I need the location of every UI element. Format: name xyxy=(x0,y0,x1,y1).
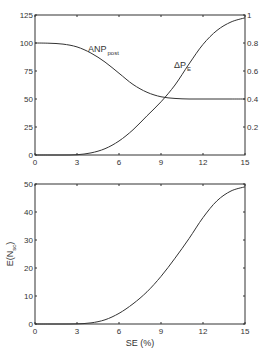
top-y-ticks-left: 0255075100125 xyxy=(20,11,37,160)
bottom-x-ticks: 03691215 xyxy=(33,184,250,336)
top-plot: 03691215 0255075100125 0.20.40.60.81 ANP… xyxy=(20,11,259,167)
x-tick-label: 9 xyxy=(159,327,164,336)
bottom-y-ticks: 01020304050 xyxy=(24,180,245,329)
y-tick-label-right: 0.2 xyxy=(247,123,259,132)
y-tick-label: 20 xyxy=(24,264,33,273)
y-tick-label: 0 xyxy=(29,320,34,329)
x-tick-label: 12 xyxy=(199,327,208,336)
x-tick-label: 0 xyxy=(33,158,38,167)
x-tick-label: 9 xyxy=(159,158,164,167)
bottom-plot: 03691215 01020304050 E(Nsc) SE (%) xyxy=(5,180,250,348)
anp-post-line xyxy=(35,43,245,99)
y-tick-label-right: 0.8 xyxy=(247,39,259,48)
figure: 03691215 0255075100125 0.20.40.60.81 ANP… xyxy=(0,0,264,351)
x-tick-label: 6 xyxy=(117,327,122,336)
x-tick-label: 6 xyxy=(117,158,122,167)
y-tick-label: 50 xyxy=(24,95,33,104)
y-tick-label-right: 0.4 xyxy=(247,95,259,104)
delta-pe-line xyxy=(35,18,245,155)
e-nsc-line xyxy=(35,187,245,324)
x-tick-label: 15 xyxy=(241,327,250,336)
y-tick-label: 40 xyxy=(24,208,33,217)
x-tick-label: 12 xyxy=(199,158,208,167)
top-x-ticks: 03691215 xyxy=(33,15,250,167)
y-tick-label: 75 xyxy=(24,67,33,76)
y-tick-label: 0 xyxy=(29,151,34,160)
x-tick-label: 3 xyxy=(75,327,80,336)
delta-pe-label: ΔPE xyxy=(174,60,191,72)
bottom-y-axis-label: E(Nsc) xyxy=(5,242,17,267)
x-tick-label: 0 xyxy=(33,327,38,336)
top-plot-frame xyxy=(35,15,245,155)
x-tick-label: 3 xyxy=(75,158,80,167)
y-tick-label: 100 xyxy=(20,39,34,48)
y-tick-label-right: 0.6 xyxy=(247,67,259,76)
y-tick-label: 125 xyxy=(20,11,34,20)
y-tick-label: 25 xyxy=(24,123,33,132)
y-tick-label: 50 xyxy=(24,180,33,189)
y-tick-label-right: 1 xyxy=(247,11,252,20)
y-tick-label: 10 xyxy=(24,292,33,301)
bottom-x-axis-label: SE (%) xyxy=(126,338,155,348)
x-tick-label: 15 xyxy=(241,158,250,167)
y-tick-label: 30 xyxy=(24,236,33,245)
